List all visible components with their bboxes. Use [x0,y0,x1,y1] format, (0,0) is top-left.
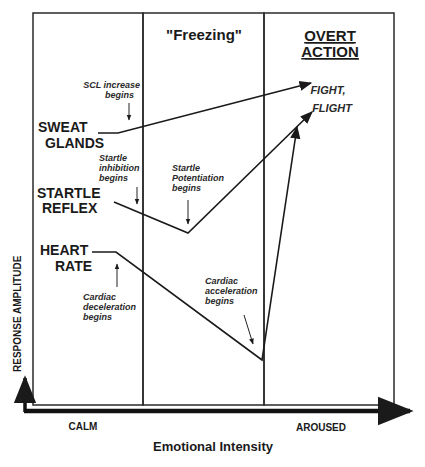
cardiac-deceleration-3: begins [83,312,112,322]
y-axis-label: RESPONSE AMPLITUDE [12,255,23,372]
cardiac-acceleration-arrow [244,315,253,344]
freezing-label: "Freezing" [166,26,242,43]
freezing-zone [143,13,264,405]
heart-rate-label-2: RATE [55,258,92,274]
x-axis-calm-label: CALM [69,421,98,432]
fight-label: FIGHT, [310,84,345,96]
scl-annotation-1: SCL increase [83,80,140,90]
sweat-glands-label-1: SWEAT [38,119,88,135]
sweat-glands-label-2: GLANDS [45,135,104,151]
action-zone [264,13,394,405]
startle-reflex-label-2: REFLEX [42,200,98,216]
startle-potentiation-1: Startle [172,163,200,173]
cardiac-acceleration-2: acceleration [205,286,258,296]
startle-inhibition-2: inhibition [99,163,140,173]
cardiac-acceleration-3: begins [205,296,234,306]
startle-reflex-label-1: STARTLE [37,185,101,201]
scl-annotation-2: begins [105,90,134,100]
cardiac-deceleration-1: Cardiac [83,292,116,302]
defense-cascade-diagram: "Freezing" OVERT ACTION FIGHT, FLIGHT SW… [0,0,425,467]
overt-action-label-line1: OVERT [304,27,356,44]
x-axis-aroused-label: AROUSED [296,422,346,433]
overt-action-label-line2: ACTION [301,43,359,60]
flight-label: FLIGHT [312,102,353,114]
startle-potentiation-2: Potentiation [172,173,224,183]
x-axis-title: Emotional Intensity [153,439,274,454]
startle-inhibition-1: Startle [99,153,127,163]
startle-potentiation-3: begins [172,183,201,193]
cardiac-deceleration-2: deceleration [83,302,137,312]
startle-inhibition-3: begins [99,173,128,183]
heart-rate-label-1: HEART [40,242,89,258]
cardiac-acceleration-1: Cardiac [205,276,238,286]
